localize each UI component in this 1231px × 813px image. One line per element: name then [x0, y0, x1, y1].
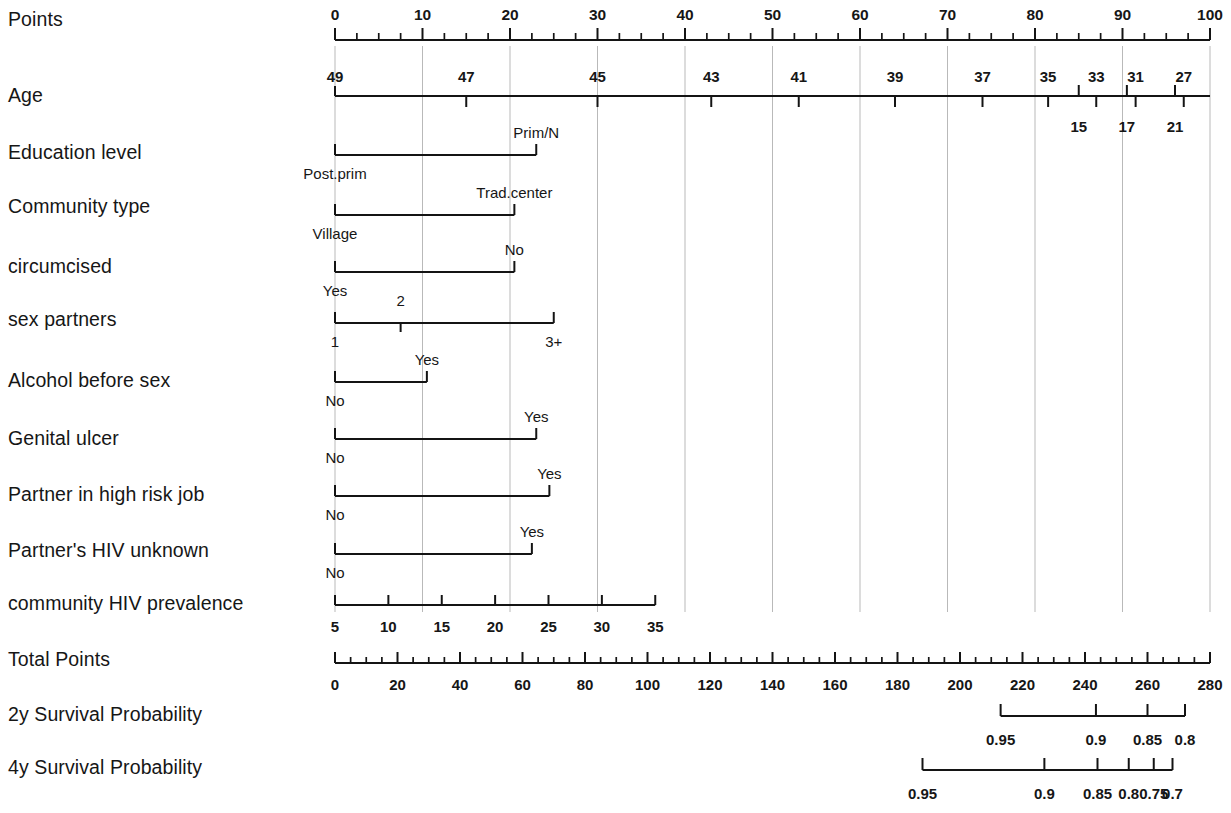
tick-label-points-90: 90 — [1114, 7, 1131, 23]
tick-label-2y-survival-probability-0.95: 0.95 — [986, 732, 1015, 747]
row-label-alcohol-before-sex: Alcohol before sex — [8, 371, 170, 391]
cat-label-education-level-Post.prim: Post.prim — [303, 166, 366, 181]
cat-label-partner-high-risk-job-Yes: Yes — [537, 466, 561, 481]
row-label-partner-high-risk-job: Partner in high risk job — [8, 485, 204, 505]
tick-label-total-220: 220 — [1010, 677, 1035, 692]
tick-label-age-43: 43 — [703, 69, 720, 84]
tick-label-total-0: 0 — [331, 677, 339, 692]
tick-label-prev-30: 30 — [594, 619, 611, 634]
cat-label-sex-partners-2: 2 — [396, 293, 404, 308]
tick-label-total-20: 20 — [389, 677, 406, 692]
tick-label-points-20: 20 — [501, 7, 518, 23]
tick-label-prev-10: 10 — [380, 619, 397, 634]
tick-label-age-21: 21 — [1167, 119, 1184, 134]
tick-label-points-40: 40 — [676, 7, 693, 23]
row-label-age: Age — [8, 86, 43, 106]
cat-label-alcohol-before-sex-No: No — [325, 393, 344, 408]
cat-label-education-level-Prim/N: Prim/N — [513, 125, 559, 140]
tick-label-4y-survival-probability-0.95: 0.95 — [908, 786, 937, 801]
row-label-4y-survival-probability: 4y Survival Probability — [8, 758, 202, 778]
tick-label-prev-20: 20 — [487, 619, 504, 634]
cat-label-community-type-Village: Village — [313, 226, 358, 241]
row-label-genital-ulcer: Genital ulcer — [8, 429, 119, 449]
cat-label-sex-partners-3+: 3+ — [545, 334, 562, 349]
row-label-circumcised: circumcised — [8, 257, 112, 277]
cat-label-circumcised-No: No — [505, 242, 524, 257]
tick-label-4y-survival-probability-0.85: 0.85 — [1083, 786, 1112, 801]
cat-label-community-type-Trad.center: Trad.center — [476, 185, 552, 200]
row-label-community-hiv-prevalence: community HIV prevalence — [8, 594, 243, 614]
tick-label-4y-survival-probability-0.7: 0.7 — [1162, 786, 1183, 801]
tick-label-age-33: 33 — [1088, 69, 1105, 84]
cat-label-sex-partners-1: 1 — [331, 334, 339, 349]
row-label-2y-survival-probability: 2y Survival Probability — [8, 705, 202, 725]
tick-label-points-0: 0 — [331, 7, 340, 23]
tick-label-age-27: 27 — [1175, 69, 1192, 84]
row-label-total-points: Total Points — [8, 650, 110, 670]
tick-label-total-120: 120 — [697, 677, 722, 692]
nomogram-figure: Points0102030405060708090100Age494745434… — [0, 0, 1231, 813]
tick-label-total-40: 40 — [452, 677, 469, 692]
tick-label-age-31: 31 — [1127, 69, 1144, 84]
tick-label-age-41: 41 — [790, 69, 807, 84]
tick-label-points-30: 30 — [589, 7, 606, 23]
cat-label-genital-ulcer-Yes: Yes — [524, 409, 548, 424]
tick-label-total-260: 260 — [1135, 677, 1160, 692]
cat-label-alcohol-before-sex-Yes: Yes — [415, 352, 439, 367]
cat-label-genital-ulcer-No: No — [325, 450, 344, 465]
tick-label-prev-25: 25 — [540, 619, 557, 634]
row-label-points: Points — [8, 10, 63, 30]
tick-label-points-70: 70 — [939, 7, 956, 23]
tick-label-points-60: 60 — [851, 7, 868, 23]
tick-label-total-280: 280 — [1197, 677, 1222, 692]
tick-label-age-39: 39 — [887, 69, 904, 84]
tick-label-total-100: 100 — [635, 677, 660, 692]
tick-label-total-160: 160 — [822, 677, 847, 692]
cat-label-partner-hiv-unknown-No: No — [325, 565, 344, 580]
tick-label-age-49: 49 — [327, 69, 344, 84]
tick-label-points-80: 80 — [1026, 7, 1043, 23]
tick-label-total-60: 60 — [514, 677, 531, 692]
nomogram-canvas — [0, 0, 1231, 813]
tick-label-total-240: 240 — [1072, 677, 1097, 692]
row-label-partner-hiv-unknown: Partner's HIV unknown — [8, 541, 209, 561]
tick-label-prev-5: 5 — [331, 619, 339, 634]
tick-label-age-35: 35 — [1040, 69, 1057, 84]
tick-label-4y-survival-probability-0.9: 0.9 — [1034, 786, 1055, 801]
tick-label-age-17: 17 — [1119, 119, 1136, 134]
tick-label-age-45: 45 — [589, 69, 606, 84]
tick-label-prev-15: 15 — [433, 619, 450, 634]
tick-label-2y-survival-probability-0.9: 0.9 — [1086, 732, 1107, 747]
tick-label-points-100: 100 — [1197, 7, 1223, 23]
row-label-education-level: Education level — [8, 143, 142, 163]
row-label-community-type: Community type — [8, 197, 150, 217]
tick-label-age-15: 15 — [1070, 119, 1087, 134]
tick-label-total-180: 180 — [885, 677, 910, 692]
tick-label-2y-survival-probability-0.85: 0.85 — [1133, 732, 1162, 747]
tick-label-4y-survival-probability-0.8: 0.8 — [1118, 786, 1139, 801]
tick-label-total-140: 140 — [760, 677, 785, 692]
tick-label-points-50: 50 — [764, 7, 781, 23]
tick-label-2y-survival-probability-0.8: 0.8 — [1175, 732, 1196, 747]
cat-label-partner-hiv-unknown-Yes: Yes — [520, 524, 544, 539]
tick-label-age-37: 37 — [974, 69, 991, 84]
tick-label-points-10: 10 — [414, 7, 431, 23]
tick-label-age-47: 47 — [458, 69, 475, 84]
cat-label-partner-high-risk-job-No: No — [325, 507, 344, 522]
tick-label-total-200: 200 — [947, 677, 972, 692]
tick-label-total-80: 80 — [577, 677, 594, 692]
tick-label-prev-35: 35 — [647, 619, 664, 634]
row-label-sex-partners: sex partners — [8, 310, 117, 330]
cat-label-circumcised-Yes: Yes — [323, 283, 347, 298]
